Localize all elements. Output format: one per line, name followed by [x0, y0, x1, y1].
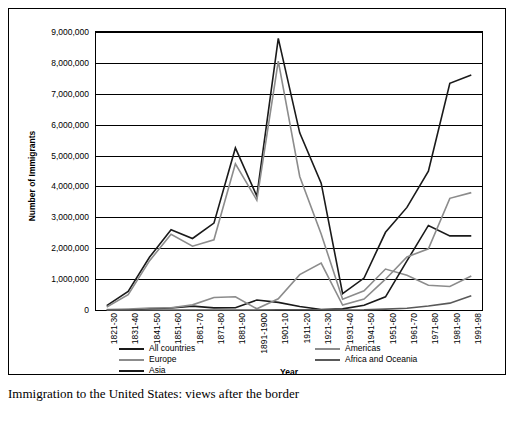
- legend-swatch: [119, 359, 144, 361]
- chart-figure: 01,000,0002,000,0003,000,0004,000,0005,0…: [8, 8, 506, 375]
- y-tick-label: 5,000,000: [51, 151, 89, 160]
- x-tick-label: 1901-10: [281, 313, 290, 344]
- legend-label: Americas: [345, 343, 380, 353]
- legend-label: Asia: [149, 365, 166, 375]
- legend-swatch: [119, 348, 144, 350]
- y-tick-label: 7,000,000: [51, 89, 89, 98]
- y-tick-label: 4,000,000: [51, 182, 89, 191]
- y-tick-label: 2,000,000: [51, 244, 89, 253]
- y-axis-title: Number of Immigrants: [27, 96, 37, 256]
- plot-wrap: 01,000,0002,000,0003,000,0004,000,0005,0…: [9, 9, 505, 374]
- legend-label: All countries: [149, 343, 195, 353]
- legend-label: Europe: [149, 354, 176, 364]
- x-tick-label: 1911-20: [303, 313, 312, 344]
- x-tick-label: 1851-60: [174, 313, 183, 344]
- series-line: [107, 61, 472, 307]
- x-tick-label: 1831-40: [131, 313, 140, 344]
- x-tick-label: 1881-90: [238, 313, 247, 344]
- legend-swatch: [315, 348, 340, 350]
- plot-area: [95, 31, 483, 311]
- legend-label: Africa and Oceania: [345, 354, 417, 364]
- legend-swatch: [315, 359, 340, 361]
- legend-column-right: AmericasAfrica and Oceania: [315, 343, 417, 365]
- x-tick-label: 1981-90: [453, 313, 462, 344]
- y-tick-label: 9,000,000: [51, 28, 89, 37]
- x-tick-label: 1871-80: [217, 313, 226, 344]
- legend-item: Africa and Oceania: [315, 354, 417, 365]
- x-tick-label: 1931-40: [346, 313, 355, 344]
- x-tick-label: 1941-50: [367, 313, 376, 344]
- y-tick-label: 1,000,000: [51, 275, 89, 284]
- figure-caption: Immigration to the United States: views …: [8, 386, 508, 402]
- x-tick-label: 1951-60: [389, 313, 398, 344]
- y-tick-label: 3,000,000: [51, 213, 89, 222]
- legend-item: Europe: [119, 354, 195, 365]
- y-tick-label: 8,000,000: [51, 58, 89, 67]
- legend-item: Asia: [119, 365, 195, 376]
- legend-item: All countries: [119, 343, 195, 354]
- legend-item: Americas: [315, 343, 417, 354]
- chart-legend: All countriesEuropeAsia AmericasAfrica a…: [119, 343, 459, 377]
- x-tick-label: 1991-98: [474, 313, 483, 344]
- x-tick-label: 1921-30: [324, 313, 333, 344]
- x-tick-label: 1821-30: [110, 313, 119, 344]
- x-tick-label: 1961-70: [410, 313, 419, 344]
- series-line: [107, 38, 472, 305]
- series-line: [107, 193, 472, 310]
- x-tick-label: 1841-50: [153, 313, 162, 344]
- x-tick-label: 1861-70: [196, 313, 205, 344]
- y-tick-label: 0: [84, 306, 89, 315]
- legend-swatch: [119, 370, 144, 372]
- series-line: [107, 225, 472, 310]
- series-lines: [96, 32, 482, 310]
- y-tick-label: 6,000,000: [51, 120, 89, 129]
- legend-column-left: All countriesEuropeAsia: [119, 343, 195, 376]
- x-tick-label: 1971-80: [431, 313, 440, 344]
